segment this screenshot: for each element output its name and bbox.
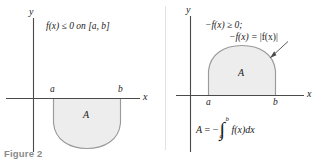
formula-lhs: A [196,124,202,135]
right-tick-label-a: a [206,98,211,108]
right-condition-line2: −f(x) = |f(x)| [229,33,278,43]
right-x-axis-label: x [307,89,311,99]
formula-integral: b ∫ a [218,120,231,142]
formula-equals: = [205,124,211,135]
formula-upper-limit: b [225,116,229,123]
right-condition-line1: −f(x) ≥ 0; [205,21,242,31]
left-tick-label-a: a [50,85,55,95]
left-x-axis-label: x [143,92,147,102]
left-tick-label-b: b [118,85,123,95]
left-condition-text: f(x) ≤ 0 on [a, b] [46,22,110,32]
annotation-leader-arrow [270,42,288,59]
right-tick-label-b: b [273,98,278,108]
left-region-label-A: A [83,110,89,120]
formula-lower-limit: a [219,133,223,140]
right-y-axis-label: y [186,5,190,15]
area-formula: A = − b ∫ a f(x)dx [196,120,255,142]
right-condition-line2-prefix: −f(x) = [229,32,260,42]
formula-integrand: f(x)dx [231,124,254,135]
figure-2-container: y x f(x) ≤ 0 on [a, b] a b A y x −f(x) ≥… [0,0,328,164]
right-condition-line2-abs: |f(x)| [260,32,278,42]
left-y-axis-label: y [29,7,33,17]
right-region-label-A: A [238,68,244,78]
figure-caption: Figure 2 [4,148,43,159]
